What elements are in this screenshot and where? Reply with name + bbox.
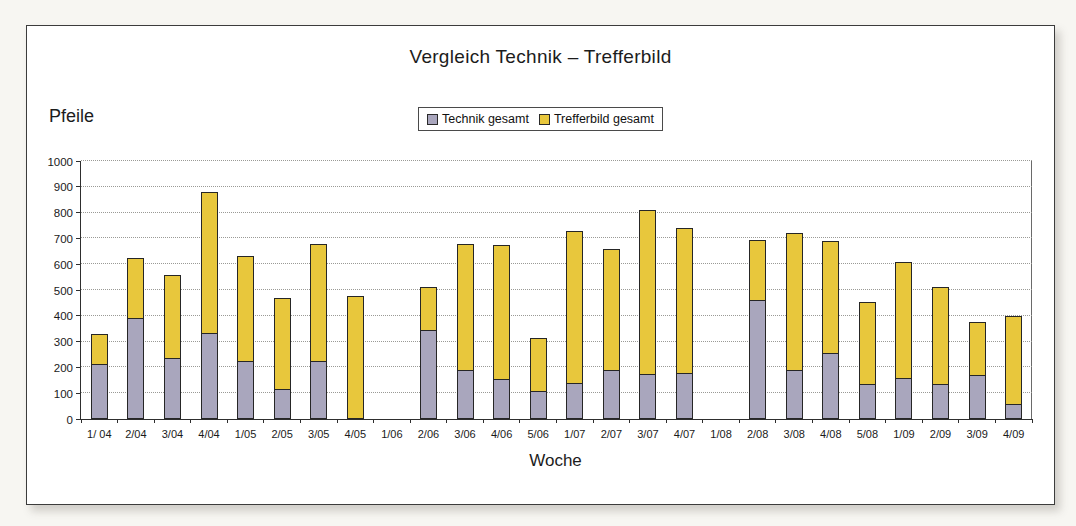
bar-segment-trefferbild — [457, 244, 474, 370]
bar-segment-technik — [420, 330, 437, 419]
x-axis-tick — [154, 419, 155, 423]
bar-segment-technik — [932, 384, 949, 419]
x-axis-tick — [593, 419, 594, 423]
bar-4-07 — [676, 228, 693, 419]
y-axis-tick-label: 600 — [31, 259, 73, 271]
bar-3-06 — [457, 244, 474, 419]
bar-segment-trefferbild — [639, 210, 656, 374]
x-axis-label: 4/04 — [191, 428, 228, 440]
bar-4-04 — [201, 192, 218, 419]
x-axis-label: 2/08 — [739, 428, 776, 440]
legend-item-technik: Technik gesamt — [427, 112, 529, 126]
bar-segment-trefferbild — [859, 302, 876, 385]
x-axis-label: 3/06 — [447, 428, 484, 440]
y-axis-tick-label: 200 — [31, 362, 73, 374]
y-axis-tick-label: 800 — [31, 207, 73, 219]
legend: Technik gesamtTrefferbild gesamt — [27, 107, 1054, 131]
y-axis-tick — [76, 186, 81, 187]
gridline — [81, 366, 1032, 367]
x-axis-tick — [995, 419, 996, 423]
bar-4-09 — [1005, 316, 1022, 419]
bar-segment-trefferbild — [91, 334, 108, 364]
x-axis-label: 4/06 — [483, 428, 520, 440]
legend-item-trefferbild: Trefferbild gesamt — [539, 112, 654, 126]
bar-segment-technik — [603, 370, 620, 419]
bar-segment-technik — [164, 358, 181, 419]
chart-panel: Vergleich Technik – Trefferbild Pfeile T… — [26, 25, 1055, 505]
bar-segment-trefferbild — [310, 244, 327, 361]
bar-segment-technik — [676, 373, 693, 419]
x-axis-label: 4/05 — [337, 428, 374, 440]
bar-segment-technik — [566, 383, 583, 419]
x-axis-tick — [885, 419, 886, 423]
chart-title: Vergleich Technik – Trefferbild — [27, 46, 1054, 68]
x-axis-label: 4/07 — [666, 428, 703, 440]
gridline — [81, 289, 1032, 290]
gridline — [81, 186, 1032, 187]
x-axis-label: 1/ 04 — [81, 428, 118, 440]
y-axis-tick-label: 300 — [31, 336, 73, 348]
bar-segment-trefferbild — [164, 275, 181, 359]
x-axis-label: 3/07 — [630, 428, 667, 440]
x-axis-tick — [1032, 419, 1033, 423]
bar-segment-technik — [822, 353, 839, 419]
x-axis-tick — [373, 419, 374, 423]
bar-3-09 — [969, 322, 986, 419]
x-axis-tick — [483, 419, 484, 423]
gridline — [81, 160, 1032, 161]
bar-segment-trefferbild — [530, 338, 547, 391]
bar-segment-trefferbild — [932, 287, 949, 384]
bar-segment-trefferbild — [676, 228, 693, 372]
x-axis-label: 2/09 — [922, 428, 959, 440]
legend-swatch-icon — [427, 114, 438, 125]
x-axis-tick — [337, 419, 338, 423]
bar-3-08 — [786, 233, 803, 419]
bar-2-05 — [274, 298, 291, 419]
x-axis-label: 2/05 — [264, 428, 301, 440]
bar-1--04 — [91, 334, 108, 419]
x-axis-tick — [227, 419, 228, 423]
bar-segment-technik — [91, 364, 108, 419]
gridline — [81, 315, 1032, 316]
bar-1-07 — [566, 231, 583, 419]
x-axis-tick — [117, 419, 118, 423]
bar-segment-technik — [1005, 404, 1022, 419]
bar-3-04 — [164, 275, 181, 419]
bar-4-06 — [493, 245, 510, 419]
x-axis-tick — [922, 419, 923, 423]
x-axis-tick — [958, 419, 959, 423]
bar-4-05 — [347, 296, 364, 419]
bar-2-07 — [603, 249, 620, 419]
legend-box: Technik gesamtTrefferbild gesamt — [418, 107, 663, 131]
x-axis-tick — [446, 419, 447, 423]
x-axis-label: 3/08 — [776, 428, 813, 440]
y-axis-tick — [76, 212, 81, 213]
bar-2-09 — [932, 287, 949, 419]
x-axis-title: Woche — [80, 451, 1031, 471]
bar-segment-trefferbild — [822, 241, 839, 353]
x-axis-label: 1/08 — [703, 428, 740, 440]
bar-segment-technik — [639, 374, 656, 419]
y-axis-tick-label: 500 — [31, 285, 73, 297]
bar-segment-trefferbild — [895, 262, 912, 378]
bar-segment-technik — [749, 300, 766, 419]
x-axis-label: 3/04 — [154, 428, 191, 440]
x-axis-tick — [666, 419, 667, 423]
bar-segment-trefferbild — [969, 322, 986, 375]
gridline — [81, 392, 1032, 393]
bar-segment-technik — [274, 389, 291, 419]
x-axis-tick — [812, 419, 813, 423]
x-axis-label: 5/06 — [520, 428, 557, 440]
bar-4-08 — [822, 241, 839, 419]
y-axis-tick — [76, 393, 81, 394]
bar-segment-technik — [969, 375, 986, 419]
x-axis-tick — [300, 419, 301, 423]
bar-segment-technik — [310, 361, 327, 419]
y-axis-tick-label: 1000 — [31, 156, 73, 168]
bar-segment-technik — [530, 391, 547, 419]
gridline — [81, 263, 1032, 264]
bar-segment-trefferbild — [201, 192, 218, 333]
bar-segment-trefferbild — [566, 231, 583, 383]
bar-segment-trefferbild — [127, 258, 144, 319]
bar-3-07 — [639, 210, 656, 419]
